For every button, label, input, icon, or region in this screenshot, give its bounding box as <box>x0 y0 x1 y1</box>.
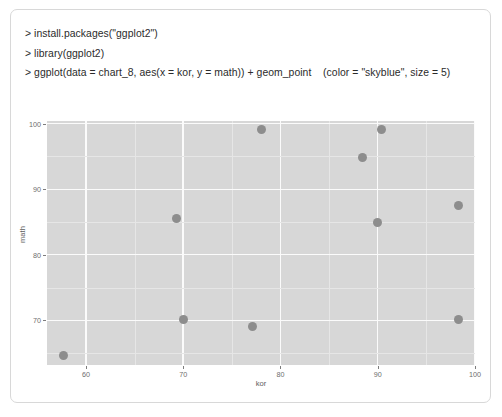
console-line-2: > library(ggplot2) <box>25 44 480 64</box>
gridline-vertical-minor <box>329 121 330 365</box>
x-tick-label: 90 <box>374 370 382 379</box>
y-tick-mark <box>43 124 46 125</box>
console-line-3: > ggplot(data = chart_8, aes(x = kor, y … <box>25 63 480 82</box>
gridline-horizontal <box>47 254 475 255</box>
scatter-point <box>377 125 386 134</box>
gridline-vertical <box>474 121 475 365</box>
x-tick-mark <box>280 366 281 369</box>
x-tick-mark <box>475 366 476 369</box>
gridline-vertical-minor <box>426 121 427 365</box>
gridline-horizontal <box>47 189 475 190</box>
gridline-horizontal-minor <box>47 353 475 354</box>
scatter-plot: 60708090100708090100 kor math <box>18 112 488 390</box>
x-tick-mark <box>86 366 87 369</box>
gridline-horizontal-minor <box>47 288 475 289</box>
x-tick-mark <box>378 366 379 369</box>
console-line-1: > install.packages("ggplot2") <box>25 24 480 44</box>
y-tick-label: 100 <box>21 119 41 128</box>
y-tick-mark <box>43 320 46 321</box>
r-console-block: > install.packages("ggplot2") > library(… <box>25 24 480 82</box>
y-tick-mark <box>43 189 46 190</box>
y-tick-label: 90 <box>21 185 41 194</box>
scatter-point <box>248 322 257 331</box>
scatter-point <box>179 315 188 324</box>
scatter-point <box>454 315 463 324</box>
screenshot-root: > install.packages("ggplot2") > library(… <box>0 0 502 417</box>
gridline-vertical-minor <box>232 121 233 365</box>
x-tick-label: 70 <box>179 370 187 379</box>
x-tick-label: 80 <box>276 370 284 379</box>
y-tick-label: 70 <box>21 316 41 325</box>
scatter-point <box>454 201 463 210</box>
gridline-horizontal <box>47 320 475 321</box>
gridline-vertical <box>280 121 281 365</box>
plot-panel <box>47 121 475 365</box>
x-axis-title: kor <box>47 379 475 388</box>
y-tick-label: 80 <box>21 250 41 259</box>
gridline-vertical-minor <box>135 121 136 365</box>
x-tick-mark <box>183 366 184 369</box>
x-tick-label: 100 <box>469 370 481 379</box>
y-tick-mark <box>43 255 46 256</box>
gridline-horizontal-minor <box>47 156 475 157</box>
scatter-point <box>373 218 382 227</box>
gridline-vertical <box>85 121 86 365</box>
y-axis-title: math <box>18 226 27 243</box>
gridline-vertical <box>182 121 183 365</box>
gridline-vertical <box>377 121 378 365</box>
scatter-point <box>59 351 68 360</box>
scatter-point <box>358 153 367 162</box>
scatter-point <box>257 125 266 134</box>
gridline-horizontal-minor <box>47 222 475 223</box>
x-tick-label: 60 <box>82 370 90 379</box>
